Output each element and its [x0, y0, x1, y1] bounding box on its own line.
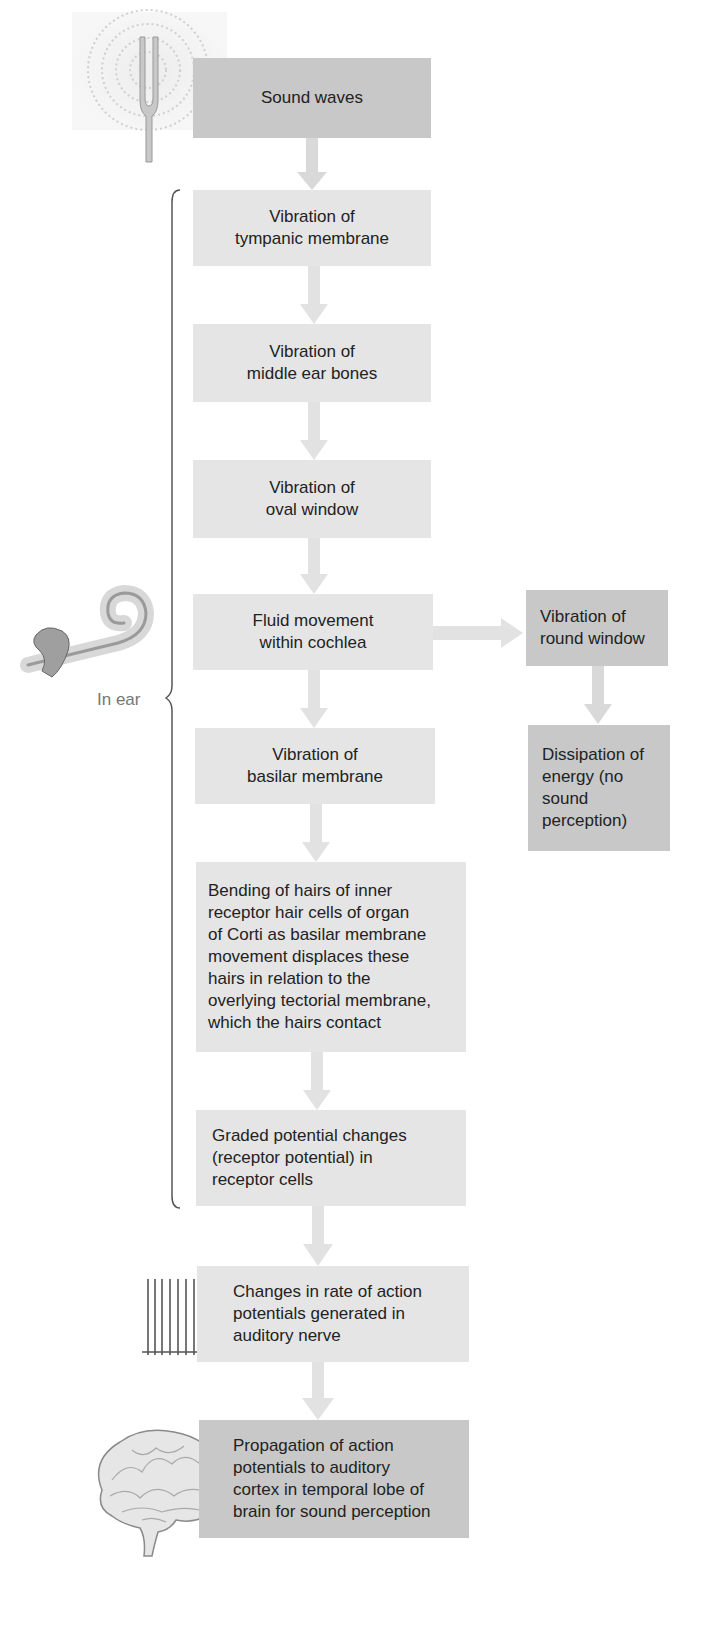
- node-oval-window-label: Vibration of oval window: [266, 477, 359, 521]
- node-propagation-label: Propagation of action potentials to audi…: [233, 1435, 431, 1523]
- node-fluid-movement: Fluid movement within cochlea: [193, 594, 433, 670]
- node-sound-waves: Sound waves: [193, 58, 431, 138]
- arrow-down-icon: [300, 670, 328, 728]
- arrow-down-icon: [303, 1206, 333, 1266]
- node-changes-in-rate-label: Changes in rate of action potentials gen…: [233, 1281, 422, 1347]
- node-bending-of-hairs-label: Bending of hairs of inner receptor hair …: [208, 880, 431, 1034]
- node-oval-window: Vibration of oval window: [193, 460, 431, 538]
- in-ear-label: In ear: [97, 690, 140, 710]
- node-graded-potential: Graded potential changes (receptor poten…: [196, 1110, 466, 1206]
- node-basilar-membrane-label: Vibration of basilar membrane: [247, 744, 383, 788]
- arrow-down-icon: [303, 1052, 331, 1110]
- arrow-down-icon: [300, 402, 328, 460]
- arrow-down-icon: [297, 138, 327, 190]
- node-propagation: Propagation of action potentials to audi…: [199, 1420, 469, 1538]
- arrow-down-icon: [302, 1362, 334, 1420]
- node-fluid-movement-label: Fluid movement within cochlea: [253, 610, 374, 654]
- node-round-window: Vibration of round window: [526, 590, 668, 666]
- node-tympanic-membrane-label: Vibration of tympanic membrane: [235, 206, 389, 250]
- node-changes-in-rate: Changes in rate of action potentials gen…: [197, 1266, 469, 1362]
- arrow-down-icon: [302, 804, 330, 862]
- node-basilar-membrane: Vibration of basilar membrane: [195, 728, 435, 804]
- arrow-down-icon: [300, 538, 328, 594]
- node-dissipation-of-energy-label: Dissipation of energy (no sound percepti…: [542, 744, 644, 832]
- node-dissipation-of-energy: Dissipation of energy (no sound percepti…: [528, 725, 670, 851]
- in-ear-bracket: [158, 188, 182, 1210]
- node-round-window-label: Vibration of round window: [540, 606, 645, 650]
- node-middle-ear-bones: Vibration of middle ear bones: [193, 324, 431, 402]
- arrow-down-icon: [584, 666, 612, 724]
- node-graded-potential-label: Graded potential changes (receptor poten…: [212, 1125, 407, 1191]
- arrow-down-icon: [300, 266, 328, 324]
- node-sound-waves-label: Sound waves: [261, 87, 363, 109]
- node-middle-ear-bones-label: Vibration of middle ear bones: [247, 341, 377, 385]
- node-tympanic-membrane: Vibration of tympanic membrane: [193, 190, 431, 266]
- cochlea-icon: [18, 585, 158, 685]
- arrow-right-icon: [433, 618, 523, 648]
- node-bending-of-hairs: Bending of hairs of inner receptor hair …: [196, 862, 466, 1052]
